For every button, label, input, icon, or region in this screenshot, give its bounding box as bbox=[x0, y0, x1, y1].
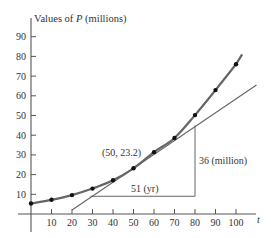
data-point bbox=[131, 166, 135, 170]
curve-path bbox=[31, 54, 242, 203]
data-point bbox=[90, 186, 94, 190]
data-point bbox=[29, 201, 33, 205]
population-chart: 102030405060708090 102030405060708090100… bbox=[0, 0, 271, 238]
data-point bbox=[172, 136, 176, 140]
data-point bbox=[152, 150, 156, 154]
x-tick-label: 70 bbox=[170, 217, 180, 228]
data-point bbox=[213, 88, 217, 92]
x-ticks: 102030405060708090100 bbox=[47, 209, 244, 228]
tangent-line-path bbox=[72, 85, 257, 210]
data-point bbox=[49, 198, 53, 202]
y-tick-label: 30 bbox=[16, 149, 26, 160]
x-tick-label: 60 bbox=[149, 217, 159, 228]
y-axis-label: Values of P (millions) bbox=[34, 13, 127, 25]
x-tick-label: 40 bbox=[108, 217, 118, 228]
tangent-line bbox=[72, 85, 257, 210]
x-tick-label: 90 bbox=[211, 217, 221, 228]
y-tick-label: 60 bbox=[16, 90, 26, 101]
run-label: 51 (yr) bbox=[131, 183, 159, 195]
y-tick-label: 50 bbox=[16, 110, 26, 121]
y-tick-label: 70 bbox=[16, 71, 26, 82]
x-axis-label: t bbox=[257, 214, 260, 225]
x-tick-label: 10 bbox=[47, 217, 57, 228]
y-tick-label: 10 bbox=[16, 189, 26, 200]
data-point bbox=[111, 178, 115, 182]
y-tick-label: 90 bbox=[16, 31, 26, 42]
x-tick-label: 20 bbox=[67, 217, 77, 228]
x-tick-label: 100 bbox=[229, 217, 244, 228]
x-tick-label: 30 bbox=[88, 217, 98, 228]
data-point bbox=[234, 62, 238, 66]
rise-label: 36 (million) bbox=[199, 155, 247, 167]
point-label: (50, 23.2) bbox=[102, 147, 141, 159]
data-point bbox=[70, 193, 74, 197]
x-tick-label: 80 bbox=[190, 217, 200, 228]
x-tick-label: 50 bbox=[129, 217, 139, 228]
data-point bbox=[193, 113, 197, 117]
y-ticks: 102030405060708090 bbox=[16, 31, 36, 200]
y-tick-label: 80 bbox=[16, 51, 26, 62]
y-tick-label: 40 bbox=[16, 130, 26, 141]
slope-triangle: 51 (yr)36 (million) bbox=[90, 125, 247, 196]
y-tick-label: 20 bbox=[16, 169, 26, 180]
